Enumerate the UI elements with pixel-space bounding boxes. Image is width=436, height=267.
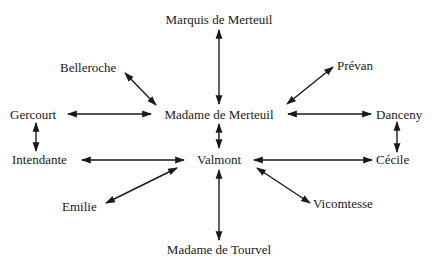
- node-belleroche: Belleroche: [60, 61, 116, 74]
- node-marquis-de-merteuil: Marquis de Merteuil: [166, 13, 273, 26]
- arrows-layer: [0, 0, 436, 267]
- edge-prevan-merteuil: [287, 67, 333, 104]
- node-gercourt: Gercourt: [10, 108, 56, 121]
- node-valmont: Valmont: [197, 153, 241, 166]
- node-madame-de-merteuil: Madame de Merteuil: [164, 108, 273, 121]
- edge-vicomtesse-valmont: [257, 168, 310, 203]
- relationship-diagram: Marquis de Merteuil Belleroche Prévan Ge…: [0, 0, 436, 267]
- node-danceny: Danceny: [376, 108, 422, 121]
- edge-emilie-valmont: [106, 168, 177, 203]
- node-emilie: Emilie: [62, 200, 97, 213]
- node-cecile: Cécile: [376, 153, 409, 166]
- edge-belleroche-merteuil: [125, 73, 156, 105]
- node-intendante: Intendante: [12, 153, 67, 166]
- node-vicomtesse: Vicomtesse: [313, 197, 373, 210]
- node-prevan: Prévan: [337, 59, 373, 72]
- node-madame-de-tourvel: Madame de Tourvel: [167, 243, 271, 256]
